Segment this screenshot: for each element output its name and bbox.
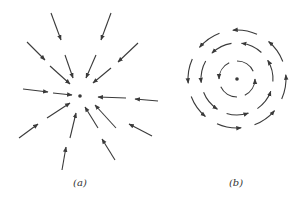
field-arrow [65, 55, 73, 78]
point-charge-dot [78, 94, 82, 98]
field-arrow [118, 43, 138, 62]
circulating-arrow-segment [188, 59, 192, 83]
circulating-arrow-segment [245, 79, 255, 95]
field-arrow [102, 139, 115, 160]
circulating-arrow-segment [219, 63, 229, 79]
field-arrow [51, 13, 61, 40]
field-arrow [135, 99, 158, 101]
circulating-arrow-segment [257, 91, 270, 108]
field-arrow [95, 105, 116, 128]
panel-b-circular-field [188, 30, 286, 128]
field-arrow [27, 42, 45, 60]
field-arrow [62, 147, 66, 170]
circulating-arrow-segment [227, 113, 249, 115]
field-arrow [93, 68, 111, 83]
field-arrow [19, 124, 38, 138]
center-dot [235, 77, 239, 81]
circulating-arrow-segment [282, 75, 286, 99]
circulating-arrow-segment [237, 61, 253, 71]
circulating-arrow-segment [200, 33, 220, 47]
field-arrow [50, 66, 70, 84]
field-diagram [0, 0, 306, 200]
circulating-arrow-segment [191, 97, 205, 117]
field-arrow [53, 93, 72, 95]
field-arrow [129, 124, 152, 136]
circulating-arrow-segment [269, 42, 283, 62]
field-arrow [98, 97, 126, 98]
panel-a-label: (a) [73, 177, 87, 188]
circulating-arrow-segment [217, 124, 241, 128]
circulating-arrow-segment [255, 111, 275, 125]
circulating-arrow-segment [201, 61, 206, 83]
circulating-arrow-segment [221, 87, 237, 97]
panel-a-radial-field [19, 13, 158, 170]
circulating-arrow-segment [204, 92, 218, 109]
panel-b-label: (b) [229, 177, 243, 188]
field-arrow [70, 113, 76, 138]
field-arrow [85, 107, 98, 128]
circulating-arrow-segment [268, 60, 273, 81]
circulating-arrow-segment [233, 30, 257, 34]
field-arrow [47, 103, 70, 118]
circulating-arrow-segment [242, 43, 262, 52]
circulating-arrow-segment [212, 43, 232, 53]
field-arrow [23, 89, 48, 92]
field-arrow [101, 13, 111, 40]
field-arrow [86, 55, 96, 78]
